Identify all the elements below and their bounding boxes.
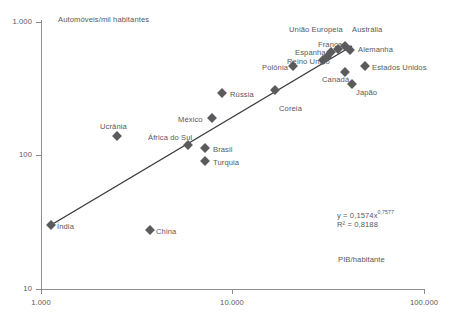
data-point-marker [200, 143, 210, 153]
data-point-label: União Europeia [289, 25, 343, 34]
data-point-label: Brasil [213, 145, 233, 154]
y-tick-label: 1.000 [0, 17, 32, 26]
r-squared-value: R² = 0,8188 [337, 220, 378, 229]
data-point-marker [145, 225, 155, 235]
regression-equation: y = 0,1574x0,7577 [337, 209, 394, 220]
data-point-label: Austrália [352, 25, 382, 34]
y-tick-label: 100 [0, 150, 32, 159]
x-tick-label: 1.000 [6, 298, 76, 307]
data-point-label: Ucrânia [100, 122, 127, 131]
data-point-marker [270, 85, 280, 95]
data-point-label: África do Sul [148, 133, 192, 142]
data-point-label: Turquia [213, 158, 239, 167]
y-tick-label: 10 [0, 284, 32, 293]
data-point-marker [345, 45, 355, 55]
data-point-label: Canadá [322, 75, 349, 84]
data-point-marker [112, 131, 122, 141]
y-axis-title: Automóveis/mil habitantes [58, 15, 149, 24]
data-point-marker [360, 61, 370, 71]
data-point-label: Polônia [262, 63, 288, 72]
data-point-label: China [156, 227, 176, 236]
data-point-label: Japão [356, 88, 377, 97]
x-tick-label: 10.000 [197, 298, 267, 307]
x-tick-mark [41, 289, 42, 294]
data-point-marker [207, 113, 217, 123]
data-point-label: México [178, 115, 203, 124]
regression-equation-text: y = 0,1574x [337, 211, 378, 220]
x-tick-label: 100.000 [389, 298, 452, 307]
y-tick-mark [36, 22, 41, 23]
data-point-marker [217, 88, 227, 98]
x-tick-mark [424, 289, 425, 294]
data-point-label: França [318, 40, 342, 49]
data-point-label: Rússia [230, 90, 254, 99]
x-axis-line [41, 289, 425, 290]
x-tick-mark [232, 289, 233, 294]
y-tick-mark [36, 155, 41, 156]
data-point-marker [200, 156, 210, 166]
y-axis-line [41, 20, 42, 291]
data-point-label: Coreia [279, 104, 302, 113]
data-point-label: Espanha [295, 48, 326, 57]
x-axis-title: PIB/habitante [338, 255, 385, 264]
data-point-marker [46, 220, 56, 230]
data-point-label: Alemanha [358, 45, 393, 54]
data-point-label: Índia [57, 222, 74, 231]
regression-exponent: 0,7577 [378, 209, 394, 215]
scatter-chart: 1.00010010 1.00010.000100.000 Automóveis… [0, 0, 452, 324]
data-point-label: Estados Unidos [372, 63, 427, 72]
